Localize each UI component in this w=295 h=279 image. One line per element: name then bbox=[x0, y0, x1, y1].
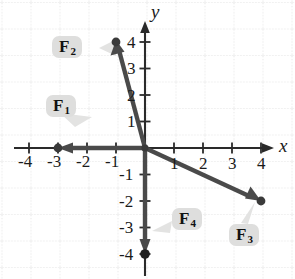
x-tick-label-neg3: -3 bbox=[47, 153, 61, 170]
vector-label-f2-text: F bbox=[59, 37, 69, 56]
y-tick-label-4: 4 bbox=[127, 34, 136, 51]
x-tick-label-2: 2 bbox=[199, 155, 208, 172]
vector-label-f3-text: F bbox=[236, 225, 246, 244]
vector-f4-endpoint-dot bbox=[140, 249, 150, 259]
x-tick-label-1: 1 bbox=[170, 155, 179, 172]
vector-label-f4-text: F bbox=[179, 209, 189, 228]
y-tick-label-3: 3 bbox=[127, 60, 136, 77]
vector-label-f1-sub: 1 bbox=[64, 104, 70, 116]
vector-label-f4: F4 bbox=[172, 208, 202, 230]
y-tick-label-neg3: -3 bbox=[119, 219, 133, 236]
y-tick-label-neg2: -2 bbox=[119, 193, 133, 210]
x-tick-label-4: 4 bbox=[257, 155, 266, 172]
origin-dot bbox=[141, 144, 148, 151]
vector-f2-endpoint-dot bbox=[112, 38, 121, 47]
y-tick-label-neg4: -4 bbox=[119, 246, 133, 263]
vector-label-f3: F3 bbox=[229, 224, 259, 246]
x-tick-label-neg1: -1 bbox=[105, 153, 119, 170]
y-axis-name: y bbox=[151, 2, 159, 21]
vector-diagram-figure: -4 -3 -2 -1 1 2 3 4 4 3 2 1 -1 -2 -3 -4 … bbox=[0, 0, 295, 279]
y-tick-label-2: 2 bbox=[127, 87, 136, 104]
vector-label-f1: F1 bbox=[46, 95, 76, 117]
vector-label-f2: F2 bbox=[52, 36, 82, 58]
vector-f3-endpoint-dot bbox=[257, 197, 266, 206]
vector-label-f1-text: F bbox=[53, 96, 63, 115]
vector-label-f3-sub: 3 bbox=[247, 233, 253, 245]
x-tick-label-neg4: -4 bbox=[18, 153, 32, 170]
x-tick-label-3: 3 bbox=[228, 155, 237, 172]
vector-label-f4-sub: 4 bbox=[190, 217, 196, 229]
x-axis-name: x bbox=[279, 136, 287, 155]
x-tick-label-neg2: -2 bbox=[76, 153, 90, 170]
y-tick-label-1: 1 bbox=[127, 113, 136, 130]
vector-label-f2-sub: 2 bbox=[70, 45, 76, 57]
y-tick-label-neg1: -1 bbox=[119, 166, 133, 183]
